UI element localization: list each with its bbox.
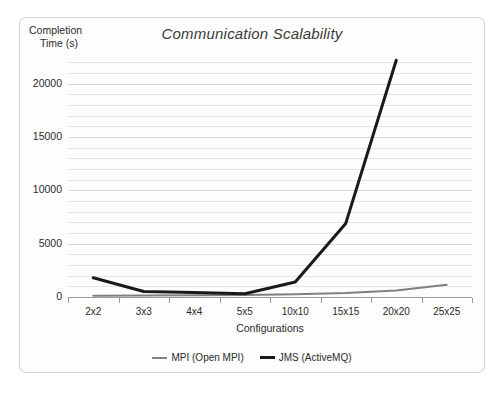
gridline-minor (68, 116, 472, 117)
y-tick-label: 20000 (6, 77, 62, 89)
x-tick-label: 3x3 (116, 306, 172, 317)
y-tick-label: 10000 (6, 183, 62, 195)
x-tick-mark (220, 298, 221, 303)
legend-label-mpi: MPI (Open MPI) (171, 352, 243, 363)
x-tick-label: 25x25 (419, 306, 475, 317)
gridline-minor (68, 158, 472, 159)
x-axis-title: Configurations (68, 322, 472, 334)
x-tick-label: 10x10 (267, 306, 323, 317)
gridline-minor (68, 62, 472, 63)
gridline-major (68, 244, 472, 245)
gridline-minor (68, 94, 472, 95)
gridline-minor (68, 212, 472, 213)
x-tick-mark (119, 298, 120, 303)
gridline-major (68, 137, 472, 138)
gridline-minor (68, 180, 472, 181)
gridline-minor (68, 254, 472, 255)
legend-swatch-jms-icon (260, 356, 275, 359)
gridline-major (68, 84, 472, 85)
x-tick-label: 4x4 (166, 306, 222, 317)
gridline-minor (68, 265, 472, 266)
legend-label-jms: JMS (ActiveMQ) (279, 352, 352, 363)
gridline-minor (68, 276, 472, 277)
x-tick-label: 15x15 (318, 306, 374, 317)
x-tick-label: 2x2 (65, 306, 121, 317)
gridline-minor (68, 169, 472, 170)
gridline-minor (68, 222, 472, 223)
x-tick-label: 20x20 (368, 306, 424, 317)
x-tick-label: 5x5 (217, 306, 273, 317)
legend-swatch-mpi-icon (152, 357, 167, 359)
x-tick-mark (169, 298, 170, 303)
x-tick-mark (371, 298, 372, 303)
y-tick-label: 0 (6, 290, 62, 302)
legend-item-jms: JMS (ActiveMQ) (260, 352, 352, 363)
gridline-minor (68, 126, 472, 127)
legend-item-mpi: MPI (Open MPI) (152, 352, 243, 363)
gridline-minor (68, 201, 472, 202)
x-tick-mark (321, 298, 322, 303)
gridline-major (68, 190, 472, 191)
gridline-minor (68, 286, 472, 287)
y-tick-label: 15000 (6, 130, 62, 142)
plot-area (68, 57, 472, 297)
gridline-minor (68, 148, 472, 149)
x-tick-mark (270, 298, 271, 303)
gridline-minor (68, 233, 472, 234)
x-tick-mark (68, 298, 69, 303)
chart-legend: MPI (Open MPI) JMS (ActiveMQ) (0, 352, 504, 363)
y-tick-label: 5000 (6, 237, 62, 249)
x-tick-mark (472, 298, 473, 303)
x-tick-mark (422, 298, 423, 303)
chart-title: Communication Scalability (0, 25, 504, 42)
gridline-minor (68, 105, 472, 106)
gridline-minor (68, 73, 472, 74)
